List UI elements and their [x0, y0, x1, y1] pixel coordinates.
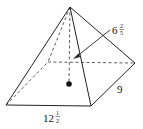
visible-edges [6, 7, 135, 106]
pyramid-diagram: 6 2 5 12 1 2 9 [0, 0, 143, 129]
hidden-base-left-edge [6, 62, 48, 105]
arrow-head-icon [73, 53, 80, 59]
hidden-edges [6, 7, 135, 105]
svg-text:6: 6 [112, 24, 118, 36]
hidden-lateral-edge [48, 7, 70, 62]
height-arrow [76, 30, 110, 57]
svg-text:12: 12 [43, 112, 54, 124]
svg-text:2: 2 [56, 118, 59, 124]
hidden-base-back-edge [48, 62, 135, 63]
svg-text:2: 2 [120, 23, 123, 29]
svg-text:5: 5 [120, 30, 123, 36]
svg-text:1: 1 [56, 110, 59, 116]
height-line [69, 7, 70, 83]
height-label: 6 2 5 [112, 23, 124, 36]
base-center-dot [66, 81, 72, 87]
base-width-label: 9 [117, 83, 123, 95]
base-length-label: 12 1 2 [43, 110, 60, 124]
